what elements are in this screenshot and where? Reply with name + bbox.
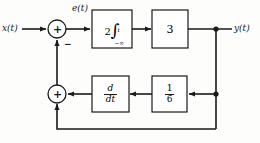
- integrator-block-label-wrap: 2∫t−∞: [92, 10, 132, 48]
- integrator-upper-limit: t: [118, 27, 120, 33]
- derivative-numerator: d: [104, 84, 117, 94]
- junction-dot-output-top: [213, 26, 218, 31]
- bottom-summer-plus-sign: +: [53, 89, 62, 100]
- integrator-coefficient: 2: [104, 26, 110, 37]
- gain-one-sixth-denominator: 6: [165, 95, 175, 104]
- gain3-block-label-wrap: 3: [152, 10, 188, 48]
- derivative-block-label-wrap: d dt: [92, 76, 129, 112]
- integrator-expression: 2∫t−∞: [104, 19, 119, 39]
- wire-unity-feedback-path: [57, 104, 216, 129]
- input-signal-label: x(t): [2, 24, 18, 33]
- integrator-lower-limit: −∞: [115, 40, 124, 46]
- output-signal-label: y(t): [234, 24, 250, 33]
- derivative-denominator: dt: [104, 95, 117, 104]
- top-summer-minus-sign: −: [64, 40, 72, 49]
- block-diagram-canvas: x(t) e(t) y(t) + − + 2∫t−∞ 3 d dt 1 6: [0, 0, 260, 143]
- gain3-label: 3: [167, 23, 174, 36]
- error-signal-label: e(t): [72, 4, 88, 13]
- gain-one-sixth-numerator: 1: [165, 84, 175, 94]
- gain-one-sixth-fraction: 1 6: [165, 84, 175, 104]
- top-summer-plus-sign: +: [53, 24, 62, 35]
- gain-one-sixth-block-label-wrap: 1 6: [152, 76, 187, 112]
- derivative-fraction: d dt: [104, 84, 117, 104]
